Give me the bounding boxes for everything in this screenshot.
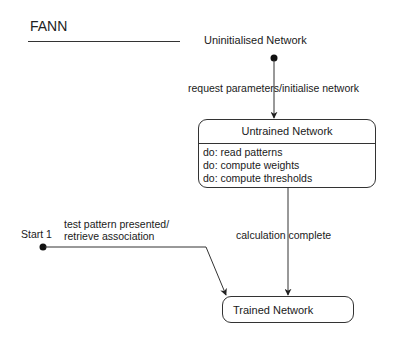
state-name-trained: Trained Network <box>233 304 313 316</box>
state-divider <box>199 143 375 144</box>
transition-label-test-pattern-line1: test pattern presented/ <box>64 218 169 230</box>
transition-label-initialise: request parameters/initialise network <box>188 82 359 94</box>
state-name-untrained: Untrained Network <box>199 125 375 137</box>
transition-label-test-pattern-line2: retrieve association <box>64 230 154 242</box>
transition-label-calculation-complete: calculation complete <box>236 229 331 241</box>
initial-state-label-start1: Start 1 <box>21 228 52 240</box>
state-trained-network: Trained Network <box>222 296 354 323</box>
initial-state-label-uninitialised: Uninitialised Network <box>204 34 307 46</box>
activity-read-patterns: do: read patterns <box>203 146 312 159</box>
transition-arrow-test-pattern <box>45 247 226 295</box>
state-activities: do: read patterns do: compute weights do… <box>203 146 312 185</box>
state-untrained-network: Untrained Network do: read patterns do: … <box>198 119 376 188</box>
activity-compute-weights: do: compute weights <box>203 159 312 172</box>
activity-compute-thresholds: do: compute thresholds <box>203 172 312 185</box>
